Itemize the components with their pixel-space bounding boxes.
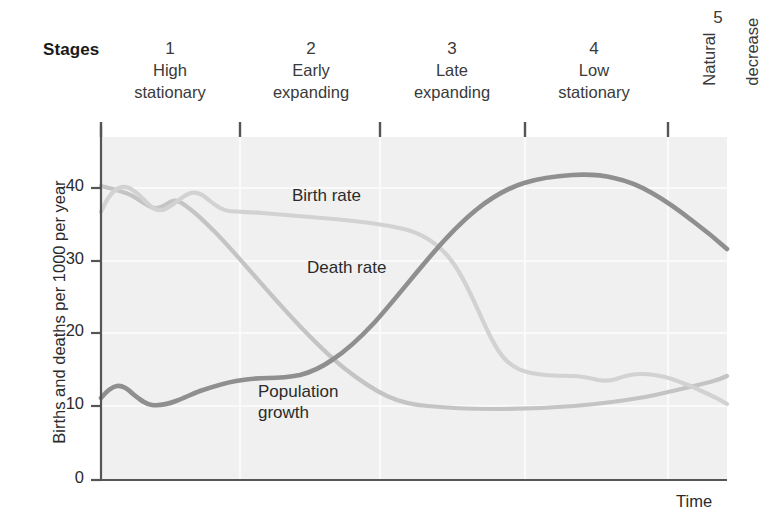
stage-column-2: 2 Early expanding [251,38,371,104]
stage-name-5-line2: decrease [743,18,761,86]
stage-number-5: 5 [706,8,730,28]
y-tick-label-40: 40 [46,176,84,195]
y-tick-label-30: 30 [46,249,84,268]
population-growth-label-line2: growth [258,403,309,422]
stage-name-3-line1: Late [392,60,512,82]
birth-rate-label: Birth rate [292,186,361,207]
stage-name-1-line1: High [110,60,230,82]
stage-name-1-line2: stationary [110,82,230,104]
stage-name-5-line1: Natural [700,32,718,85]
stage-column-1: 1 High stationary [110,38,230,104]
stage-column-4: 4 Low stationary [534,38,654,104]
stage-number-3: 3 [392,38,512,60]
stage-name-2-line1: Early [251,60,371,82]
stage-name-5: Natural decrease [677,8,701,104]
x-axis-title: Time [676,492,712,511]
stage-number-1: 1 [110,38,230,60]
stage-name-4-line1: Low [534,60,654,82]
stage-number-4: 4 [534,38,654,60]
y-tick-label-10: 10 [46,394,84,413]
death-rate-label: Death rate [307,258,386,279]
stage-name-2-line2: expanding [251,82,371,104]
y-axis-ticks [91,188,101,480]
stage-column-3: 3 Late expanding [392,38,512,104]
stage-name-4-line2: stationary [534,82,654,104]
y-tick-label-0: 0 [46,468,84,487]
stage-name-3-line2: expanding [392,82,512,104]
y-tick-label-20: 20 [46,321,84,340]
population-growth-label-line1: Population [258,382,338,401]
stage-number-2: 2 [251,38,371,60]
stages-label: Stages [43,40,99,60]
population-growth-label: Population growth [258,382,338,423]
stage-boundary-ticks [101,122,668,137]
